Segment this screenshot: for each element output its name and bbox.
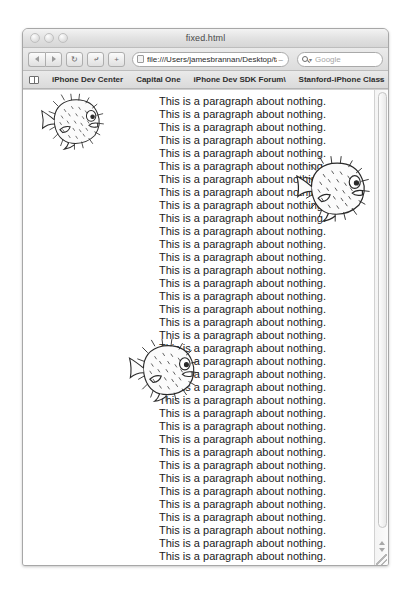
scrollbar-thumb[interactable] [378,92,387,528]
paragraph: This is a paragraph about nothing. [159,108,388,121]
document-body: This is a paragraph about nothing.This i… [23,90,388,566]
paragraph: This is a paragraph about nothing. [159,134,388,147]
paragraph: This is a paragraph about nothing. [159,238,388,251]
paragraph: This is a paragraph about nothing. [159,433,388,446]
browser-toolbar: ↻ ⤶ + file:///Users/jamesbrannan/Desktop… [23,48,388,71]
forward-arrow-icon [52,56,56,62]
pufferfish-3-image [121,337,208,402]
back-arrow-icon [35,56,39,62]
bookmarks-library-icon[interactable] [29,76,39,84]
scrollbar-arrows [375,541,388,552]
search-placeholder: Google [315,55,341,64]
bookmark-item-2[interactable]: iPhone Dev SDK Forum\ [194,75,286,84]
back-button[interactable] [28,52,45,67]
paragraph: This is a paragraph about nothing. [159,563,388,566]
scroll-down-icon[interactable] [379,548,385,552]
bookmarks-bar: iPhone Dev Center Capital One iPhone Dev… [23,71,388,89]
search-field[interactable]: ▾ Google [297,52,383,67]
window-title: fixed.html [23,33,388,43]
page-favicon-icon [137,55,144,63]
url-text: file:///Users/jamesbrannan/Desktop/tas [147,55,277,64]
paragraph: This is a paragraph about nothing. [159,225,388,238]
bookmarks-overflow-button[interactable]: » [379,75,383,84]
plus-icon: + [114,55,119,64]
snapback-button[interactable]: ⤶ [87,52,104,67]
paragraph: This is a paragraph about nothing. [159,290,388,303]
scroll-up-icon[interactable] [379,541,385,545]
paragraph: This is a paragraph about nothing. [159,121,388,134]
address-bar[interactable]: file:///Users/jamesbrannan/Desktop/tas – [132,52,289,67]
pufferfish-2-image [291,152,376,224]
search-icon [302,56,308,62]
url-truncation-marker: – [279,55,283,64]
bookmark-item-0[interactable]: iPhone Dev Center [52,75,123,84]
paragraph: This is a paragraph about nothing. [159,407,388,420]
paragraph: This is a paragraph about nothing. [159,251,388,264]
paragraph: This is a paragraph about nothing. [159,498,388,511]
paragraph: This is a paragraph about nothing. [159,550,388,563]
paragraph: This is a paragraph about nothing. [159,511,388,524]
add-bookmark-button[interactable]: + [108,52,125,67]
paragraph: This is a paragraph about nothing. [159,264,388,277]
browser-window: fixed.html ↻ ⤶ + file [22,28,389,566]
bookmark-item-1[interactable]: Capital One [136,75,180,84]
paragraph: This is a paragraph about nothing. [159,524,388,537]
paragraph: This is a paragraph about nothing. [159,277,388,290]
bookmark-item-3[interactable]: Stanford-iPhone Class [299,75,385,84]
vertical-scrollbar[interactable] [374,90,388,566]
web-content-area: This is a paragraph about nothing.This i… [23,89,388,566]
paragraph: This is a paragraph about nothing. [159,316,388,329]
title-bar[interactable]: fixed.html [23,29,388,48]
reload-button[interactable]: ↻ [66,52,83,67]
resize-grip[interactable] [376,554,387,565]
paragraph: This is a paragraph about nothing. [159,485,388,498]
forward-button[interactable] [45,52,62,67]
pufferfish-1-image [29,92,117,150]
paragraph: This is a paragraph about nothing. [159,446,388,459]
snapback-icon: ⤶ [94,54,98,64]
paragraph: This is a paragraph about nothing. [159,472,388,485]
paragraph: This is a paragraph about nothing. [159,303,388,316]
paragraph: This is a paragraph about nothing. [159,95,388,108]
paragraph: This is a paragraph about nothing. [159,537,388,550]
screen: fixed.html ↻ ⤶ + file [0,0,411,600]
paragraph: This is a paragraph about nothing. [159,420,388,433]
paragraph: This is a paragraph about nothing. [159,459,388,472]
nav-button-group [28,52,62,67]
reload-icon: ↻ [71,55,78,64]
